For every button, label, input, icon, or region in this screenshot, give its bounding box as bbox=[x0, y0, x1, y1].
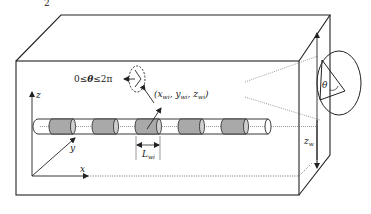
z-w-label: zw bbox=[303, 136, 315, 147]
box-domain bbox=[16, 15, 330, 195]
magnified-cross-section: θ bbox=[317, 51, 361, 115]
y-axis-label: y bbox=[69, 143, 76, 153]
angle-range-label: 0≤θ≤2π bbox=[74, 74, 113, 84]
box-right-face bbox=[299, 15, 330, 195]
box-top-face bbox=[16, 15, 330, 61]
x-axis: x bbox=[32, 163, 312, 176]
diagram-canvas: 2 z x y bbox=[0, 0, 371, 214]
diagram-svg: 2 z x y bbox=[0, 0, 371, 214]
top-fragment-label: 2 bbox=[44, 0, 50, 8]
point-coords-label: (xwi, ywi, zwi) bbox=[154, 89, 209, 100]
segment-length-label: Lwi bbox=[141, 149, 155, 160]
theta-label: θ bbox=[322, 80, 328, 90]
magnify-projection-lines bbox=[245, 56, 320, 120]
z-axis-label: z bbox=[35, 90, 41, 100]
segment-length-dimension: Lwi bbox=[136, 136, 160, 160]
pipe-segment-1 bbox=[49, 119, 75, 134]
pipe-segment-6 bbox=[221, 119, 248, 134]
pipe bbox=[33, 119, 317, 164]
x-axis-label: x bbox=[80, 164, 85, 174]
z-w-dimension: zw bbox=[303, 136, 315, 147]
cross-section-indicator: 0≤θ≤2π bbox=[74, 66, 154, 103]
y-axis: y bbox=[32, 138, 76, 176]
pipe-segment-2 bbox=[92, 119, 118, 134]
pipe-segment-4 bbox=[178, 119, 204, 134]
